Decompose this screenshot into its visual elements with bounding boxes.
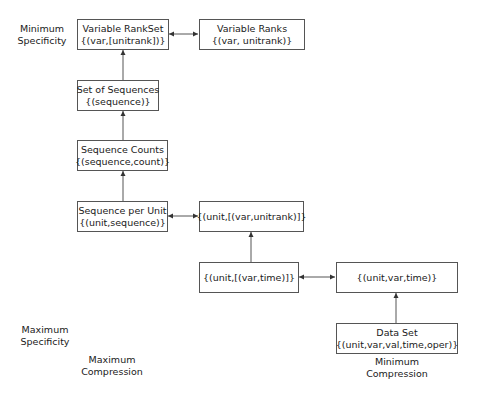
node-title: Variable Ranks (217, 23, 287, 35)
node-schema: {(unit,[(var,time)]} (203, 272, 295, 284)
label-line: Maximum (81, 354, 143, 366)
label-line: Compression (81, 366, 143, 378)
node-variable-ranks: Variable Ranks {(var, unitrank)} (199, 19, 305, 50)
node-unit-var-unitrank: {(unit,[(var,unitrank)]} (199, 201, 304, 232)
node-schema: {(unit,sequence)} (79, 217, 166, 229)
node-schema: {(unit,var,val,time,oper)} (336, 339, 458, 351)
diagram-canvas: Minimum Specificity Maximum Specificity … (0, 0, 481, 401)
node-data-set: Data Set {(unit,var,val,time,oper)} (336, 323, 458, 354)
label-minimum-compression: Minimum Compression (366, 356, 428, 380)
node-schema: {(var,[unitrank])} (81, 35, 166, 47)
label-maximum-specificity: Maximum Specificity (21, 324, 70, 348)
label-minimum-specificity: Minimum Specificity (18, 23, 67, 47)
node-unit-var-time-list: {(unit,[(var,time)]} (199, 262, 299, 293)
node-sequence-counts: Sequence Counts {(sequence,count)} (77, 140, 168, 171)
node-title: Sequence Counts (81, 144, 164, 156)
node-title: Sequence per Unit (78, 205, 166, 217)
label-line: Minimum (18, 23, 67, 35)
label-line: Minimum (366, 356, 428, 368)
node-title: Data Set (376, 327, 417, 339)
label-line: Specificity (18, 35, 67, 47)
node-schema: {(sequence,count)} (75, 156, 170, 168)
node-set-of-sequences: Set of Sequences {(sequence)} (77, 80, 159, 111)
node-schema: {(unit,var,time)} (357, 272, 438, 284)
label-maximum-compression: Maximum Compression (81, 354, 143, 378)
node-schema: {(sequence)} (85, 96, 150, 108)
node-schema: {(unit,[(var,unitrank)]} (196, 211, 306, 223)
label-line: Specificity (21, 336, 70, 348)
node-title: Set of Sequences (77, 84, 160, 96)
node-title: Variable RankSet (83, 23, 164, 35)
node-variable-rankset: Variable RankSet {(var,[unitrank])} (77, 19, 169, 50)
label-line: Maximum (21, 324, 70, 336)
node-schema: {(var, unitrank)} (212, 35, 293, 47)
node-sequence-per-unit: Sequence per Unit {(unit,sequence)} (77, 201, 168, 232)
node-unit-var-time: {(unit,var,time)} (336, 262, 458, 293)
label-line: Compression (366, 368, 428, 380)
